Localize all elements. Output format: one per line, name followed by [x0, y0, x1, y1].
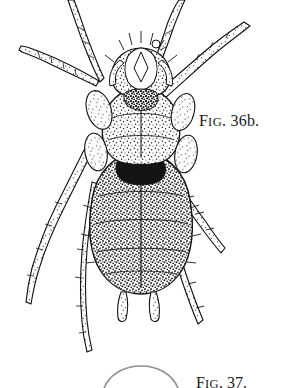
rear-leg-stubs	[118, 292, 160, 322]
next-caption-prefix-letter: F	[196, 374, 205, 388]
rear-stub-right	[150, 292, 160, 322]
next-caption-number: . 37.	[219, 374, 247, 388]
caption-prefix-letter: F	[199, 112, 208, 129]
hysterosoma-abdomen	[90, 152, 193, 294]
mite-illustration	[0, 0, 283, 388]
caption-number: . 36b.	[222, 112, 259, 129]
rear-stub-left	[118, 292, 128, 322]
next-figure-caption: FIG. 37.	[196, 374, 247, 388]
eye-spot	[152, 40, 160, 48]
next-caption-smallcaps: IG	[205, 377, 219, 388]
caption-smallcaps: IG	[208, 115, 222, 129]
figure-caption: FIG. 36b.	[199, 112, 259, 131]
next-figure-fragment	[104, 366, 178, 388]
figure-plate: FIG. 36b. FIG. 37.	[0, 0, 283, 388]
